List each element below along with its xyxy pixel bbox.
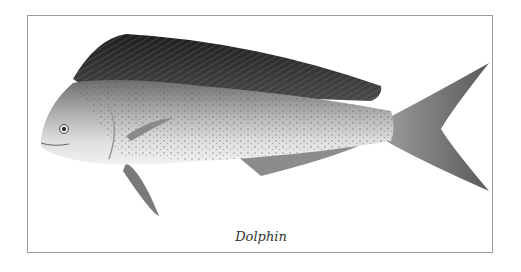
fish-illustration (28, 16, 494, 254)
figure-frame: Dolphin (27, 15, 493, 253)
figure-caption: Dolphin (28, 229, 494, 244)
